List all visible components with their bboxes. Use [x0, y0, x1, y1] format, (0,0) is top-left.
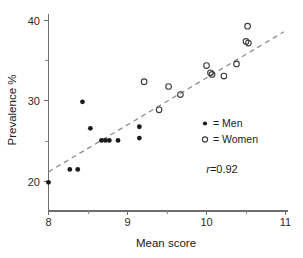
data-point — [204, 63, 210, 69]
data-point — [137, 124, 142, 129]
correlation-value: =0.92 — [210, 163, 238, 175]
x-tick-label-9: 9 — [124, 216, 130, 228]
data-point — [156, 107, 162, 113]
plot-canvas: 40 30 20 8 9 10 11 Mean score Prevalence… — [0, 0, 303, 258]
data-point — [116, 138, 121, 143]
y-axis-title: Prevalence % — [6, 75, 18, 146]
data-point — [137, 136, 142, 141]
y-tick-label-20: 20 — [28, 176, 40, 188]
axes-group — [48, 14, 288, 212]
series-men-points — [46, 99, 142, 184]
data-point — [245, 23, 251, 29]
data-point — [75, 167, 80, 172]
data-point — [141, 79, 147, 85]
legend-marker-men — [203, 121, 207, 125]
y-tick-label-30: 30 — [28, 95, 40, 107]
series-women-points — [141, 23, 251, 112]
legend-marker-women — [202, 137, 207, 142]
y-axis-tick-labels: 40 30 20 — [28, 15, 40, 188]
data-point — [107, 138, 112, 143]
data-point — [80, 99, 85, 104]
data-point — [46, 180, 51, 185]
x-tick-label-11: 11 — [280, 216, 291, 228]
y-axis-ticks — [44, 21, 48, 182]
data-point — [221, 73, 227, 79]
x-axis-ticks — [49, 211, 286, 215]
data-point — [234, 61, 240, 67]
legend: = Men = Women — [202, 117, 258, 145]
x-axis-title: Mean score — [136, 237, 196, 249]
y-tick-label-40: 40 — [28, 15, 40, 27]
legend-label-men: = Men — [213, 117, 243, 129]
scatter-plot-figure: 40 30 20 8 9 10 11 Mean score Prevalence… — [0, 0, 303, 258]
legend-label-women: = Women — [213, 133, 258, 145]
x-axis-tick-labels: 8 9 10 11 — [45, 216, 291, 228]
data-point — [67, 167, 72, 172]
x-tick-label-8: 8 — [45, 216, 51, 228]
x-tick-label-10: 10 — [200, 216, 212, 228]
data-point — [166, 84, 172, 90]
correlation-annotation: r=0.92 — [206, 163, 238, 175]
data-point — [88, 126, 93, 131]
